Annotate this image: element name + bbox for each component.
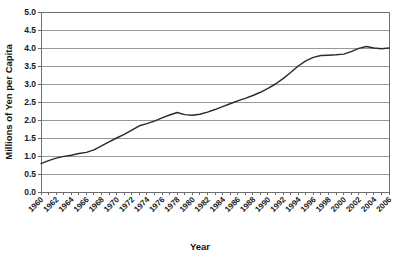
y-tick-label: 2.5 [24,97,36,107]
y-tick-label: 1.5 [24,133,36,143]
y-tick-label: 4.0 [24,43,36,53]
line-chart: 0.00.51.01.52.02.53.03.54.04.55.0 196019… [0,0,396,261]
y-tick-label: 3.0 [24,79,36,89]
y-tick-label: 0.0 [24,187,36,197]
y-tick-label: 0.5 [24,169,36,179]
y-tick-label: 4.5 [24,25,36,35]
y-tick-label: 2.0 [24,115,36,125]
y-axis-title: Millions of Yen per Capita [3,44,14,160]
y-tick-label: 1.0 [24,151,36,161]
y-tick-label: 3.5 [24,61,36,71]
chart-canvas: 0.00.51.01.52.02.53.03.54.04.55.0 196019… [0,0,396,261]
x-axis-title: Year [190,241,210,252]
y-tick-label: 5.0 [24,7,36,17]
